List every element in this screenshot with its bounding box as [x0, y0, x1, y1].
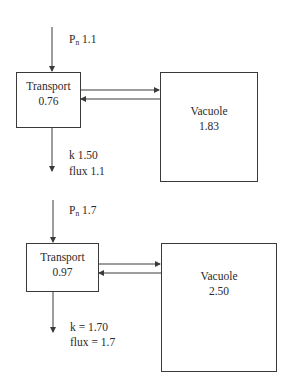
- vacuole-box-2: Vacuole 2.50: [161, 243, 277, 372]
- input-label-1: Pn 1.1: [69, 32, 96, 50]
- output-flux-label-2: flux = 1.7: [70, 335, 115, 349]
- output-flux-label-1: flux 1.1: [69, 164, 105, 178]
- transport-value: 0.97: [27, 265, 98, 279]
- input-label-2: Pn 1.7: [69, 203, 96, 221]
- vacuole-title: Vacuole: [161, 104, 257, 118]
- output-k-label-2: k = 1.70: [70, 320, 108, 334]
- vacuole-box-1: Vacuole 1.83: [160, 72, 258, 182]
- vacuole-value: 2.50: [162, 284, 276, 298]
- input-value: 1.7: [82, 204, 96, 216]
- input-value: 1.1: [82, 33, 96, 45]
- transport-box-1: Transport 0.76: [16, 72, 81, 128]
- transport-box-2: Transport 0.97: [26, 243, 99, 292]
- input-subscript: n: [75, 209, 79, 218]
- transport-title: Transport: [17, 79, 80, 93]
- transport-value: 0.76: [17, 94, 80, 108]
- output-k-label-1: k 1.50: [69, 148, 98, 162]
- vacuole-value: 1.83: [161, 119, 257, 133]
- transport-title: Transport: [27, 250, 98, 264]
- vacuole-title: Vacuole: [162, 269, 276, 283]
- input-subscript: n: [75, 38, 79, 47]
